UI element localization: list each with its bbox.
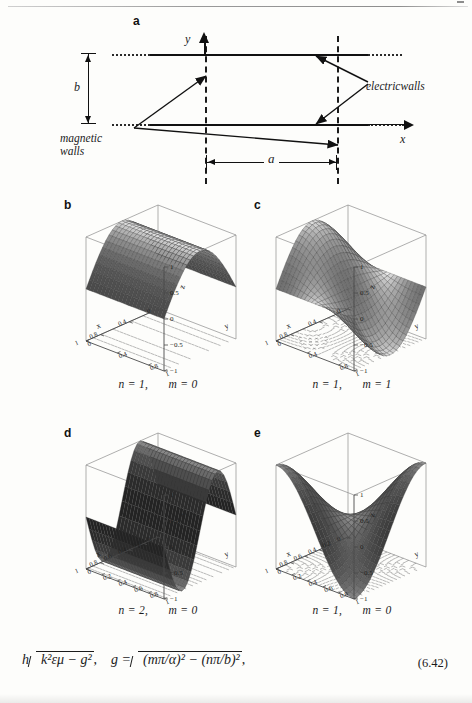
equation-radicand-left: k²εμ − g² [39, 652, 94, 668]
svg-text:x: x [95, 321, 103, 331]
equation-number: (6.42) [418, 656, 448, 671]
svg-text:−1: −1 [360, 595, 368, 603]
panel-d-caption-m: m = 0 [168, 604, 197, 616]
x-axis-arrow-icon [404, 120, 414, 130]
svg-text:0.4: 0.4 [117, 350, 128, 360]
panel-e-caption-m: m = 0 [362, 604, 391, 616]
equation-6-42: hk²εμ − g², g =(mπ/α)² − (nπ/b)², (6.42) [0, 648, 472, 688]
svg-text:0.5: 0.5 [360, 517, 369, 525]
equation-comma: , [94, 652, 98, 667]
wall-extension-bottom-left [112, 124, 150, 126]
dimension-b-label: b [74, 80, 80, 95]
svg-text:−1: −1 [170, 595, 178, 603]
svg-text:0.4: 0.4 [307, 317, 318, 327]
panel-d-caption-n: n = 2, [118, 604, 148, 616]
svg-text:1: 1 [74, 567, 80, 575]
panel-b-caption: n = 1, m = 0 [58, 378, 258, 390]
dimension-a-cap-right [336, 155, 337, 170]
magnetic-walls-label-line2: walls [60, 145, 102, 158]
dimension-a-arrow-right-icon [329, 159, 336, 165]
equation-radicand-right: (mπ/α)² − (nπ/b)² [141, 652, 242, 668]
svg-text:0.4: 0.4 [117, 317, 128, 327]
svg-text:0.5: 0.5 [360, 289, 369, 297]
panel-c-caption-m: m = 1 [362, 378, 391, 390]
svg-text:1: 1 [360, 263, 364, 271]
wall-extension-top-right [368, 54, 402, 56]
equation-body: hk²εμ − g², g =(mπ/α)² − (nπ/b)², [22, 652, 245, 668]
equation-tail: , [242, 652, 246, 667]
svg-text:0.4: 0.4 [307, 578, 318, 588]
y-axis-arrow-icon [199, 32, 209, 43]
svg-text:0.8: 0.8 [278, 558, 289, 568]
svg-text:0: 0 [170, 315, 174, 323]
panel-c-caption-n: n = 1, [312, 378, 342, 390]
panel-e-surface-plot: e 00.20.40.60.8100.20.40.60.8110.50−0.5−… [248, 424, 453, 609]
svg-text:1: 1 [170, 491, 174, 499]
svg-text:y: y [413, 549, 421, 559]
svg-text:0.2: 0.2 [102, 572, 112, 582]
svg-text:0.5: 0.5 [170, 517, 179, 525]
dimension-b-arrow-up-icon [85, 55, 91, 62]
panel-a-letter: a [133, 14, 140, 28]
svg-text:y: y [413, 321, 421, 331]
panel-d-caption: n = 2, m = 0 [58, 604, 258, 616]
svg-text:0: 0 [360, 315, 364, 323]
svg-text:x: x [285, 549, 293, 559]
svg-text:−1: −1 [170, 367, 178, 375]
svg-text:−1: −1 [360, 367, 368, 375]
panel-b-caption-n: n = 1, [118, 378, 148, 390]
svg-text:0.4: 0.4 [307, 350, 318, 360]
dimension-a-label: a [264, 151, 279, 167]
svg-text:0.8: 0.8 [278, 330, 289, 340]
equation-g-lead: g = [111, 652, 131, 667]
svg-text:0: 0 [170, 543, 174, 551]
equation-radical-right: (mπ/α)² − (nπ/b)² [131, 652, 242, 668]
svg-text:0.8: 0.8 [88, 330, 99, 340]
panel-a-waveguide-diagram: a y x b a [0, 14, 472, 172]
magnetic-walls-label: magnetic walls [60, 132, 102, 158]
dimension-b-cap-bottom [81, 123, 96, 124]
svg-text:0: 0 [360, 543, 364, 551]
electric-wall-top [150, 54, 368, 56]
svg-text:z: z [177, 283, 187, 290]
dimension-a-arrow-left-icon [208, 159, 215, 165]
svg-text:1: 1 [74, 339, 80, 347]
y-axis-label: y [185, 32, 190, 47]
page-top-rule [8, 6, 468, 7]
svg-text:−0.5: −0.5 [170, 341, 183, 349]
svg-text:1: 1 [264, 339, 270, 347]
panel-e-caption: n = 1, m = 0 [252, 604, 452, 616]
svg-text:−0.5: −0.5 [360, 341, 373, 349]
dimension-b-cap-top [81, 53, 96, 54]
dimension-b-line [88, 54, 89, 124]
svg-text:−0.5: −0.5 [360, 569, 373, 577]
panel-c-caption: n = 1, m = 1 [252, 378, 452, 390]
svg-text:0.8: 0.8 [149, 362, 160, 372]
svg-text:y: y [223, 321, 231, 331]
svg-text:0.8: 0.8 [339, 362, 350, 372]
magnetic-walls-label-line1: magnetic [60, 132, 102, 145]
equation-radical-left: k²εμ − g² [29, 652, 94, 668]
svg-text:0.4: 0.4 [307, 545, 318, 555]
page-bottom-fade [0, 694, 472, 703]
panel-d-surface-plot: d 00.20.40.60.8100.20.40.60.8110.50−0.5−… [58, 424, 263, 609]
magnetic-wall-leaders [96, 66, 346, 176]
wall-extension-top-left [112, 54, 150, 56]
x-axis-line [368, 124, 408, 125]
svg-text:0.6: 0.6 [292, 552, 303, 562]
dimension-a-cap-left [206, 155, 207, 170]
svg-text:0.6: 0.6 [323, 584, 334, 594]
svg-text:y: y [223, 549, 231, 559]
panel-c-surface-plot: c 00.40.8100.40.8110.50−0.5−1xyz [248, 196, 453, 381]
panel-b-caption-m: m = 0 [168, 378, 197, 390]
magnetic-wall-right [337, 36, 339, 184]
svg-text:1: 1 [170, 263, 174, 271]
panel-e-caption-n: n = 1, [312, 604, 342, 616]
svg-text:x: x [285, 321, 293, 331]
electric-wall-leaders [296, 50, 416, 140]
panel-b-surface-plot: b 00.40.8100.40.8110.50−0.5−1xyz [58, 196, 263, 381]
page-top-tick [457, 1, 464, 3]
svg-text:1: 1 [360, 491, 364, 499]
svg-text:0.8: 0.8 [88, 558, 99, 568]
x-axis-label: x [400, 132, 405, 147]
